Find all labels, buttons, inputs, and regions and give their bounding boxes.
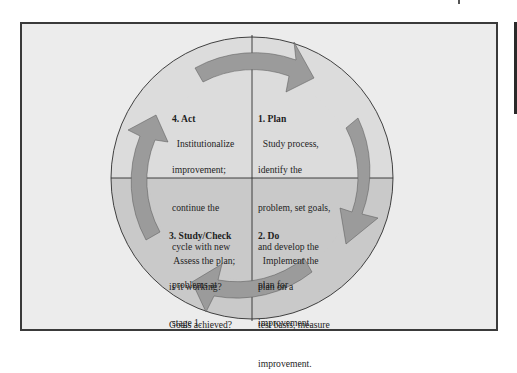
stage-act-line: improvement; bbox=[172, 164, 234, 177]
stage-study-check-line: is it working? bbox=[169, 281, 235, 294]
stage-act-line: Institutionalize bbox=[177, 138, 235, 149]
stage-do-title: 2. Do bbox=[258, 230, 330, 243]
stage-study-check-line: Goals achieved? bbox=[169, 319, 235, 332]
stage-do-line: improvement. bbox=[258, 358, 330, 371]
stage-plan-line: identify the bbox=[258, 164, 330, 177]
stage-plan-title: 1. Plan bbox=[258, 113, 330, 126]
stage-study-check-line: Assess the plan; bbox=[173, 255, 235, 266]
stage-plan-line: Study process, bbox=[263, 138, 319, 149]
stage-study-check: 3. Study/Check Assess the plan; is it wo… bbox=[169, 204, 235, 345]
stage-do-line: Implement the bbox=[263, 255, 319, 266]
stage-do-line: test basis, measure bbox=[258, 319, 330, 332]
stage-study-check-title: 3. Study/Check bbox=[169, 230, 235, 243]
stage-do-line: plan on a bbox=[258, 281, 330, 294]
stage-act-title: 4. Act bbox=[172, 113, 234, 126]
stage-do: 2. Do Implement the plan on a test basis… bbox=[258, 204, 330, 373]
